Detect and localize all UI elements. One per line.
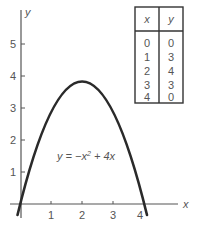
y-axis-label: y xyxy=(24,6,32,18)
y-tick-label: 3 xyxy=(10,102,16,114)
table-cell-x: 0 xyxy=(144,37,150,49)
value-table: x y 0 0 1 3 2 4 3 3 4 0 xyxy=(135,7,183,103)
x-axis-label: x xyxy=(182,198,189,210)
equation-label: y = −x2 + 4x xyxy=(56,150,116,162)
table-cell-y: 4 xyxy=(168,65,174,77)
y-tick-label: 5 xyxy=(10,38,16,50)
x-tick-label: 1 xyxy=(48,209,54,221)
y-tick-label: 4 xyxy=(10,70,16,82)
y-ticks: 1 2 3 4 5 xyxy=(10,38,25,178)
table-cell-y: 3 xyxy=(168,51,174,63)
x-tick-label: 3 xyxy=(110,209,116,221)
table-cell-x: 2 xyxy=(144,65,150,77)
x-tick-label: 4 xyxy=(137,209,143,221)
y-tick-label: 2 xyxy=(10,134,16,146)
table-header-x: x xyxy=(143,13,150,25)
y-tick-label: 1 xyxy=(10,166,16,178)
table-cell-x: 3 xyxy=(144,79,150,91)
table-cell-x: 1 xyxy=(144,51,150,63)
table-cell-y: 0 xyxy=(168,91,174,103)
table-cell-y: 0 xyxy=(168,37,174,49)
table-cell-y: 3 xyxy=(168,79,174,91)
parabola-curve xyxy=(18,82,148,216)
parabola-chart: y x 1 2 3 4 1 2 3 4 5 y = −x2 + 4x x y 0 xyxy=(0,0,200,226)
table-cell-x: 4 xyxy=(144,91,150,103)
x-tick-label: 2 xyxy=(79,209,85,221)
